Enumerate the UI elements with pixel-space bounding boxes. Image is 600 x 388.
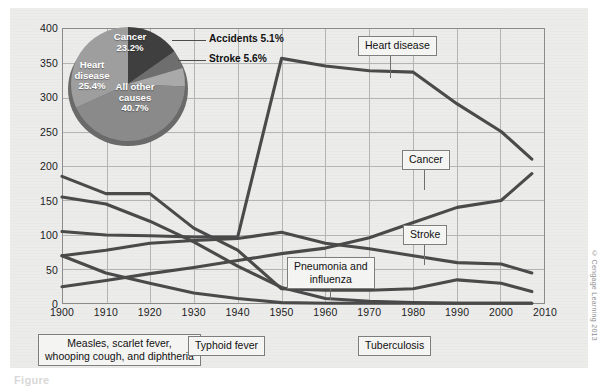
copyright-credit: © Cengage Learning 2013 bbox=[591, 250, 598, 341]
pie-label-cancer: Cancer 23.2% bbox=[102, 32, 158, 53]
y-tick-200: 200 bbox=[40, 160, 58, 172]
callout-pneumonia-and-influenza: Pneumonia and influenza bbox=[287, 257, 375, 289]
pie-label-heart-value: 25.4% bbox=[78, 80, 105, 91]
x-tick-1990: 1990 bbox=[445, 306, 469, 318]
pie-leader-stroke bbox=[178, 60, 206, 61]
x-tick-2010: 2010 bbox=[533, 306, 557, 318]
y-tick-350: 350 bbox=[40, 57, 58, 69]
pie-outer-label-stroke: Stroke 5.6% bbox=[209, 53, 267, 64]
pie-label-cancer-value: 23.2% bbox=[116, 42, 143, 53]
y-axis-labels: 400 350 300 250 200 150 100 50 0 bbox=[22, 28, 58, 304]
y-tick-100: 100 bbox=[40, 229, 58, 241]
pie-label-heart-line1: Heart bbox=[80, 59, 105, 70]
pie-label-other-line1: All other bbox=[116, 81, 155, 92]
x-tick-2000: 2000 bbox=[489, 306, 513, 318]
x-tick-1910: 1910 bbox=[94, 306, 118, 318]
callout-measles-line1: Measles, scarlet fever, bbox=[67, 337, 171, 349]
pie-label-heart-line2: disease bbox=[74, 70, 109, 81]
x-tick-1940: 1940 bbox=[226, 306, 250, 318]
leader-cancer bbox=[424, 166, 425, 190]
y-tick-150: 150 bbox=[40, 195, 58, 207]
callout-cancer: Cancer bbox=[402, 150, 450, 170]
pie-label-all-other-causes: All other causes 40.7% bbox=[106, 82, 164, 114]
y-tick-400: 400 bbox=[40, 22, 58, 34]
y-tick-250: 250 bbox=[40, 126, 58, 138]
leader-stroke bbox=[424, 241, 425, 265]
x-tick-1900: 1900 bbox=[50, 306, 74, 318]
callout-heart-disease: Heart disease bbox=[358, 36, 437, 56]
pie-leader-accidents bbox=[172, 40, 206, 41]
x-tick-1920: 1920 bbox=[138, 306, 162, 318]
x-axis-labels: 1900 1910 1920 1930 1940 1950 1960 1970 … bbox=[62, 306, 545, 322]
pie-label-other-value: 40.7% bbox=[121, 102, 148, 113]
callout-typhoid-fever: Typhoid fever bbox=[188, 336, 265, 356]
x-tick-1930: 1930 bbox=[182, 306, 206, 318]
figure-caption: Figure bbox=[14, 374, 49, 386]
y-tick-300: 300 bbox=[40, 91, 58, 103]
figure-root: 400 350 300 250 200 150 100 50 0 bbox=[0, 0, 600, 388]
callout-tuberculosis: Tuberculosis bbox=[358, 336, 431, 356]
x-tick-1960: 1960 bbox=[313, 306, 337, 318]
pie-label-cancer-name: Cancer bbox=[114, 31, 147, 42]
pie-label-other-line2: causes bbox=[119, 92, 152, 103]
x-tick-1950: 1950 bbox=[269, 306, 293, 318]
callout-measles-line2: whooping cough, and diphtheria bbox=[45, 350, 194, 362]
callout-pneumonia-line1: Pneumonia and bbox=[294, 260, 368, 272]
callout-stroke: Stroke bbox=[403, 225, 447, 245]
callout-pneumonia-line2: influenza bbox=[310, 273, 352, 285]
x-tick-1980: 1980 bbox=[401, 306, 425, 318]
callout-measles-group: Measles, scarlet fever, whooping cough, … bbox=[38, 334, 201, 366]
y-tick-50: 50 bbox=[46, 264, 58, 276]
pie-outer-label-accidents: Accidents 5.1% bbox=[209, 33, 284, 44]
x-tick-1970: 1970 bbox=[357, 306, 381, 318]
